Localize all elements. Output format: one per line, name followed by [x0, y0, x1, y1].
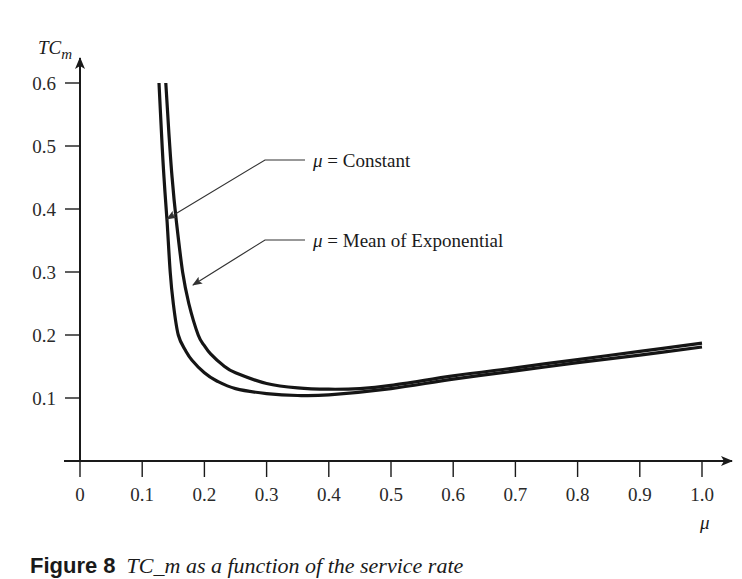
y-tick-label: 0.2 [32, 325, 56, 346]
annotation-constant-label: μ = Constant [312, 150, 411, 171]
y-tick-label: 0.6 [32, 73, 56, 94]
figure-caption-text: TC_m as a function of the service rate [127, 553, 464, 578]
axes [64, 58, 732, 461]
x-tick-label: 0.9 [628, 484, 652, 505]
x-axis-ticks: 00.10.20.30.40.50.60.70.80.91.0 [75, 461, 714, 505]
figure-caption-label: Figure 8 [30, 553, 116, 578]
x-tick-label: 0.2 [193, 484, 217, 505]
y-tick-label: 0.5 [32, 136, 56, 157]
x-tick-label: 0.5 [379, 484, 403, 505]
leader-arrow-exponential [193, 240, 305, 285]
x-axis-label: μ [699, 512, 710, 533]
figure-caption: Figure 8 TC_m as a function of the servi… [30, 553, 463, 579]
y-axis-ticks: 0.10.20.30.40.50.6 [32, 73, 80, 409]
x-tick-label: 0.7 [504, 484, 528, 505]
x-tick-label: 0.6 [441, 484, 465, 505]
x-tick-label: 0.1 [130, 484, 154, 505]
annotation-constant: μ = Constant [167, 150, 411, 219]
x-tick-label: 0.3 [255, 484, 279, 505]
x-tick-label: 1.0 [690, 484, 714, 505]
x-tick-label: 0 [75, 484, 85, 505]
x-tick-label: 0.4 [317, 484, 341, 505]
leader-arrow-constant [167, 160, 305, 219]
x-tick-label: 0.8 [566, 484, 590, 505]
y-tick-label: 0.1 [32, 388, 56, 409]
y-tick-label: 0.3 [32, 262, 56, 283]
y-tick-label: 0.4 [32, 199, 56, 220]
annotation-exponential-label: μ = Mean of Exponential [312, 230, 503, 251]
y-axis-label: TCm [38, 37, 72, 62]
annotation-exponential: μ = Mean of Exponential [193, 230, 503, 285]
